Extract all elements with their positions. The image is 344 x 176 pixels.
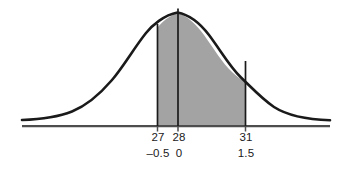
distribution-plot xyxy=(0,0,344,176)
normal-distribution-figure: 27 28 31 –0.5 0 1.5 xyxy=(0,0,344,176)
x-tick-label-27: 27 xyxy=(151,131,164,143)
x-tick-label-28: 28 xyxy=(172,131,185,143)
x-tick-label-31: 31 xyxy=(239,131,252,143)
z-tick-label-minus-0-5: –0.5 xyxy=(146,147,169,159)
z-tick-label-0: 0 xyxy=(176,147,183,159)
z-tick-label-1-5: 1.5 xyxy=(238,147,255,159)
